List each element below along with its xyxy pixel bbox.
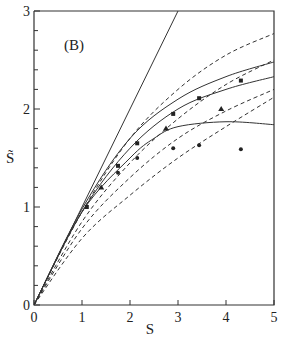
square-marker	[171, 112, 175, 116]
solid-curve	[34, 122, 274, 305]
axes: 0123450123	[23, 4, 278, 325]
circle-marker	[171, 146, 175, 150]
y-axis-title: S̃	[6, 150, 14, 166]
data-points	[85, 79, 243, 209]
x-tick-label: 5	[271, 310, 278, 325]
x-axis-title: S	[146, 321, 154, 337]
circle-marker	[197, 143, 201, 147]
square-marker	[85, 205, 89, 209]
square-marker	[116, 164, 120, 168]
circle-marker	[116, 171, 120, 175]
y-tick-label: 3	[23, 4, 30, 19]
circle-marker	[239, 147, 243, 151]
circle-marker	[135, 156, 139, 160]
square-marker	[197, 96, 201, 100]
dashed-curve	[34, 60, 274, 305]
triangle-marker	[163, 126, 169, 131]
square-marker	[239, 79, 243, 83]
y-tick-label: 2	[23, 102, 30, 117]
chart: 0123450123 (B) S S̃	[0, 0, 287, 351]
panel-label: (B)	[64, 37, 84, 54]
dashed-curve	[34, 97, 274, 305]
square-marker	[135, 141, 139, 145]
solid-curve	[34, 62, 274, 305]
dashed-curve	[34, 34, 274, 305]
curves	[34, 11, 274, 305]
y-tick-label: 0	[23, 298, 30, 313]
solid-curve	[34, 77, 274, 305]
x-tick-label: 1	[79, 310, 86, 325]
x-tick-label: 3	[175, 310, 182, 325]
plot-frame	[34, 11, 274, 305]
x-tick-label: 0	[31, 310, 38, 325]
x-tick-label: 4	[223, 310, 230, 325]
triangle-marker	[218, 106, 224, 111]
y-tick-label: 1	[23, 200, 30, 215]
x-tick-label: 2	[127, 310, 134, 325]
